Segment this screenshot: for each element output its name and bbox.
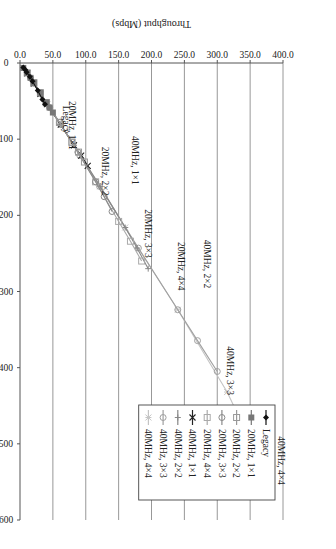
- annotation-label: 20MHz, 4×4: [176, 242, 186, 291]
- throughput-vs-phy-rate-chart: 0.050.0100.0150.0200.0250.0300.0350.0400…: [0, 0, 336, 549]
- legend-label: 40MHz, 4×4: [143, 429, 153, 478]
- legend-label: 40MHz, 1×1: [187, 429, 197, 478]
- x-tick-label: 200: [0, 210, 13, 220]
- rotated-chart-stage: 0.050.0100.0150.0200.0250.0300.0350.0400…: [0, 0, 336, 549]
- y-tick-label: 350.0: [239, 50, 261, 60]
- data-point: [248, 415, 254, 421]
- annotation-label: Legacy: [61, 106, 71, 134]
- x-tick-label: 500: [0, 439, 13, 449]
- y-tick-label: 150.0: [108, 50, 130, 60]
- annotation-label: 20MHz, 3×3: [143, 209, 153, 258]
- annotation-label: 40MHz, 1×1: [130, 136, 140, 185]
- legend-label: 20MHz, 3×3: [217, 429, 227, 478]
- x-tick-label: 100: [0, 134, 13, 144]
- y-axis-title: Throughput (Mbps): [112, 18, 191, 30]
- legend-label: 20MHz, 2×2: [231, 429, 241, 478]
- annotation-label: 40MHz, 2×2: [202, 240, 212, 289]
- x-tick-label: 300: [0, 287, 13, 297]
- y-tick-label: 100.0: [75, 50, 97, 60]
- legend-label: 20MHz, 4×4: [202, 429, 212, 478]
- legend-label: 20MHz, 1×1: [246, 429, 256, 478]
- y-tick-label: 250.0: [174, 50, 196, 60]
- y-tick-label: 50.0: [45, 50, 62, 60]
- square-marker: [248, 415, 254, 421]
- y-tick-label: 300.0: [207, 50, 229, 60]
- x-tick-label: 0: [4, 58, 9, 68]
- annotation-label: 40MHz, 3×3: [225, 346, 235, 395]
- legend-label: 40MHz, 2×2: [173, 429, 183, 478]
- square-marker: [50, 110, 56, 116]
- y-tick-label: 200.0: [141, 50, 163, 60]
- y-tick-label: 0.0: [14, 50, 26, 60]
- annotation-label: 20MHz, 2×2: [100, 147, 110, 196]
- legend-label: 40MHz, 3×3: [158, 429, 168, 478]
- annotation-label: 40MHz, 4×4: [276, 436, 286, 485]
- x-tick-label: 400: [0, 363, 13, 373]
- y-tick-label: 400.0: [272, 50, 294, 60]
- legend: Legacy20MHz, 1×120MHz, 2×220MHz, 3×320MH…: [139, 405, 275, 500]
- data-point: [50, 110, 56, 116]
- legend-label: Legacy: [261, 429, 271, 457]
- x-tick-label: 600: [0, 515, 13, 525]
